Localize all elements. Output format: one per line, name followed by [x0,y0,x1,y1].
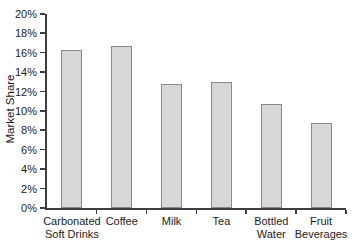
x-axis-category-label: Milk [162,215,182,228]
y-axis-tick-label: 8% [21,124,37,136]
y-axis-tick [40,110,45,112]
bar [211,82,232,208]
y-axis-tick-label: 12% [15,86,37,98]
y-axis-tick [40,129,45,131]
y-axis-tick-label: 4% [21,163,37,175]
bar [161,84,182,208]
y-axis-tick [40,207,45,209]
y-axis-tick [40,52,45,54]
x-axis-tick [295,210,297,214]
x-axis-category-label: Coffee [106,215,138,228]
x-axis-tick [245,210,247,214]
plot-area: 0%2%4%6%8%10%12%14%16%18%20%Carbonated S… [45,14,346,210]
x-axis-tick [146,210,148,214]
x-axis-category-label: Fruit Beverages [295,215,348,241]
market-share-bar-chart: Market Share 0%2%4%6%8%10%12%14%16%18%20… [0,0,359,248]
bar [111,46,132,208]
x-axis-tick [96,210,98,214]
y-axis-tick-label: 14% [15,66,37,78]
y-axis-tick [40,32,45,34]
y-axis-tick-label: 16% [15,47,37,59]
y-axis-tick-label: 10% [15,105,37,117]
x-axis-category-label: Bottled Water [254,215,288,241]
y-axis-tick-label: 2% [21,183,37,195]
y-axis-tick-label: 20% [15,8,37,20]
bar [311,123,332,208]
x-axis-category-label: Tea [213,215,231,228]
y-axis-tick-label: 0% [21,202,37,214]
bar [61,50,82,208]
y-axis-tick [40,71,45,73]
y-axis-tick [40,91,45,93]
x-axis-tick [345,210,347,214]
bar [261,104,282,208]
x-axis-category-label: Carbonated Soft Drinks [43,215,101,241]
y-axis-tick-label: 6% [21,144,37,156]
x-axis-tick [196,210,198,214]
y-axis-tick [40,149,45,151]
y-axis-tick-label: 18% [15,27,37,39]
y-axis-tick [40,188,45,190]
y-axis-tick [40,13,45,15]
y-axis-tick [40,168,45,170]
